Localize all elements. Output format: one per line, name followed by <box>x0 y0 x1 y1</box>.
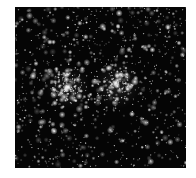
star-field-image <box>15 7 186 168</box>
star-cluster-canvas <box>15 7 186 168</box>
